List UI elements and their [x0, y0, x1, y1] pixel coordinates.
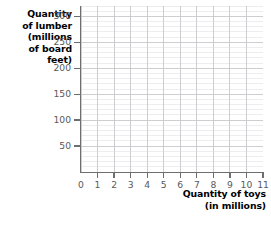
y-tick-label: 300 [45, 11, 71, 21]
x-tick-mark [246, 173, 247, 179]
x-tick-mark [97, 173, 98, 179]
y-tick-label: 150 [45, 89, 71, 99]
y-tick-label: 50 [45, 141, 71, 151]
x-tick-mark [147, 173, 148, 179]
x-tick-label: 1 [89, 180, 107, 190]
x-axis-title: Quantity of toys (in millions) [140, 188, 266, 211]
x-tick-mark [113, 173, 114, 179]
x-tick-mark [262, 173, 263, 179]
x-tick-label: 2 [105, 180, 123, 190]
x-tick-mark [229, 173, 230, 179]
x-tick-label: 0 [72, 180, 90, 190]
y-tick-mark [74, 119, 80, 120]
y-tick-mark [74, 68, 80, 69]
y-tick-label: 200 [45, 63, 71, 73]
y-tick-mark [74, 42, 80, 43]
y-tick-label: 250 [45, 37, 71, 47]
y-tick-mark [74, 16, 80, 17]
y-tick-label: 100 [45, 115, 71, 125]
x-axis-title-line-1: Quantity of toys [140, 188, 266, 200]
y-tick-mark [74, 145, 80, 146]
x-tick-mark [196, 173, 197, 179]
y-tick-mark [74, 94, 80, 95]
x-tick-mark [130, 173, 131, 179]
x-tick-mark [180, 173, 181, 179]
plot-area [81, 6, 263, 172]
x-tick-mark [213, 173, 214, 179]
x-axis-line [80, 172, 264, 173]
data-layer [81, 6, 263, 172]
chart-container: Quantity of lumber (millions of board fe… [0, 0, 271, 227]
y-axis-line [80, 6, 81, 173]
x-axis-title-line-2: (in millions) [140, 200, 266, 212]
x-tick-label: 3 [122, 180, 140, 190]
x-tick-mark [163, 173, 164, 179]
